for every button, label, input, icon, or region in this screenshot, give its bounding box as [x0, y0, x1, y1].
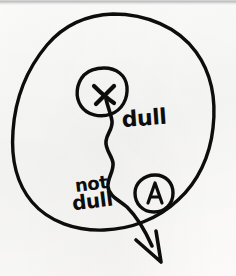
diagram-canvas: dull notdull: [0, 0, 236, 276]
circle-a: [135, 175, 173, 212]
label-dull: dull: [121, 107, 167, 130]
ink-drawing-layer: [0, 0, 236, 276]
label-not-dull: notdull: [74, 174, 114, 212]
x-mark-icon: [94, 86, 114, 104]
label-not-dull-line2: dull: [71, 189, 114, 212]
letter-a-glyph: [148, 183, 162, 203]
